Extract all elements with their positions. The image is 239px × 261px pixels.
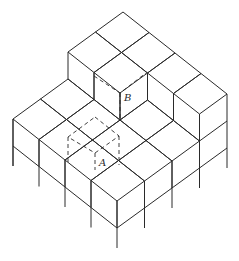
label-b: B	[123, 92, 131, 103]
top-edge	[67, 120, 93, 141]
top-edge	[122, 53, 148, 74]
top-edge	[120, 120, 146, 141]
top-edge	[123, 12, 149, 33]
side-edge	[145, 188, 173, 208]
top-edge	[119, 161, 145, 182]
side-edge	[94, 100, 120, 121]
top-edge	[148, 73, 174, 94]
side-edge	[39, 167, 65, 188]
top-edge	[68, 52, 94, 73]
top-edge	[117, 181, 145, 201]
top-edge	[200, 94, 228, 114]
top-edge	[145, 161, 173, 181]
top-edge	[146, 121, 174, 141]
top-edge	[13, 99, 41, 119]
side-edge	[172, 168, 200, 188]
top-edge	[146, 141, 172, 162]
top-edge	[94, 73, 120, 94]
top-edge	[41, 99, 67, 120]
isometric-cube-diagram: B A	[0, 0, 239, 261]
top-edge	[91, 181, 117, 202]
top-edge	[68, 32, 96, 52]
side-edge	[120, 100, 148, 120]
top-edge	[39, 120, 67, 140]
top-edge	[94, 53, 122, 73]
top-edge	[13, 119, 39, 140]
top-edge	[96, 32, 122, 53]
side-edge	[148, 100, 174, 121]
top-edge	[174, 94, 200, 115]
top-edge	[93, 120, 121, 140]
solid-cube-edges	[13, 12, 227, 248]
top-edge	[149, 33, 175, 54]
top-edge	[148, 53, 176, 73]
top-edge	[65, 160, 91, 181]
cube-b-dashed-edges	[94, 73, 146, 93]
top-edge	[201, 74, 227, 95]
top-edge	[175, 53, 201, 74]
top-edge	[119, 141, 147, 161]
top-edge	[172, 141, 200, 161]
side-edge	[200, 148, 228, 168]
side-edge	[174, 121, 200, 142]
top-edge	[39, 140, 65, 161]
label-a: A	[98, 157, 106, 168]
top-edge	[174, 74, 202, 94]
side-edge	[13, 146, 39, 167]
top-edge	[96, 12, 124, 32]
side-edge	[65, 187, 91, 208]
side-edge	[91, 208, 117, 229]
side-edge	[68, 79, 94, 100]
top-edge	[122, 33, 150, 53]
top-edge	[67, 100, 95, 120]
side-edge	[117, 208, 145, 228]
side-edge	[200, 121, 228, 141]
top-edge	[41, 79, 69, 99]
cube-a-dashed-top	[68, 117, 119, 153]
hidden-cube-edges	[68, 73, 146, 170]
